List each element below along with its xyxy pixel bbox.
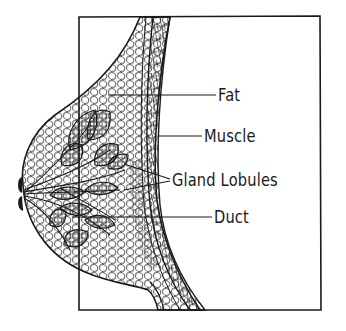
label-fat: Fat bbox=[218, 87, 240, 104]
label-muscle: Muscle bbox=[204, 128, 256, 145]
breast-anatomy-diagram bbox=[0, 0, 346, 331]
label-duct: Duct bbox=[214, 209, 249, 226]
label-gland-lobules: Gland Lobules bbox=[172, 172, 278, 189]
